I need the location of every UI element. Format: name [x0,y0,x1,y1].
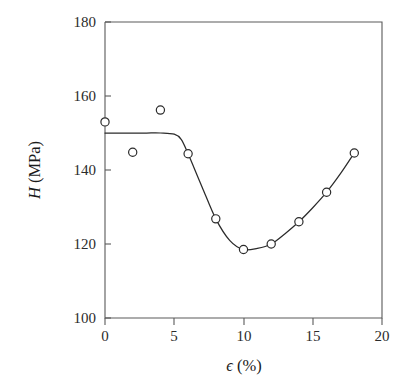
data-point-marker [129,148,137,156]
data-point-marker [156,106,164,114]
data-point-marker [267,240,275,248]
data-point-marker [239,245,247,253]
chart-figure: 180 160 140 120 100 0 5 10 15 20 H (MPa)… [0,0,410,383]
axis-frame [105,22,382,318]
chart-plot-area: 180 160 140 120 100 0 5 10 15 20 H (MPa)… [0,0,410,383]
x-tick-label-5: 5 [170,328,178,344]
y-axis-tick-labels: 180 160 140 120 100 [74,14,97,326]
y-axis-title-unit: (MPa) [25,141,44,183]
x-tick-label-0: 0 [101,328,109,344]
data-point-marker [101,118,109,126]
y-axis-title-symbol: H [25,186,44,200]
x-axis-ticks [105,318,382,325]
y-tick-label-100: 100 [74,310,97,326]
data-point-marker [350,149,358,157]
trend-curve [105,133,354,250]
y-axis-title: H (MPa) [25,141,44,200]
x-axis-tick-labels: 0 5 10 15 20 [101,328,389,344]
y-tick-label-180: 180 [74,14,97,30]
data-point-marker [184,150,192,158]
x-tick-label-15: 15 [306,328,321,344]
y-tick-label-120: 120 [74,236,97,252]
y-axis-ticks [105,22,111,318]
svg-text:H (MPa): H (MPa) [25,141,44,200]
data-point-marker [295,218,303,226]
x-axis-title-unit: (%) [237,356,262,375]
x-tick-label-10: 10 [237,328,252,344]
y-tick-label-160: 160 [74,88,97,104]
x-tick-label-20: 20 [375,328,390,344]
x-axis-title: ϵ (%) [226,356,262,375]
y-tick-label-140: 140 [74,162,97,178]
svg-text:ϵ (%): ϵ (%) [226,356,262,375]
data-point-marker [212,215,220,223]
data-point-marker [323,188,331,196]
data-point-markers [101,106,359,254]
